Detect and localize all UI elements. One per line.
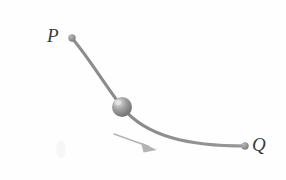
endpoint-dot-q — [241, 142, 248, 149]
point-label-p: P — [47, 26, 59, 45]
arrow-head-icon — [141, 143, 157, 153]
diagram-canvas — [0, 0, 286, 180]
curved-wire-track — [72, 38, 245, 146]
physics-diagram-figure: P Q — [0, 0, 286, 180]
bead-specular-highlight — [115, 100, 122, 105]
sliding-bead — [112, 97, 132, 117]
point-label-q: Q — [252, 135, 266, 154]
endpoint-dot-p — [68, 34, 75, 41]
motion-direction-arrow — [114, 134, 157, 153]
paper-smudge — [56, 140, 66, 158]
bead-sphere — [112, 97, 132, 117]
